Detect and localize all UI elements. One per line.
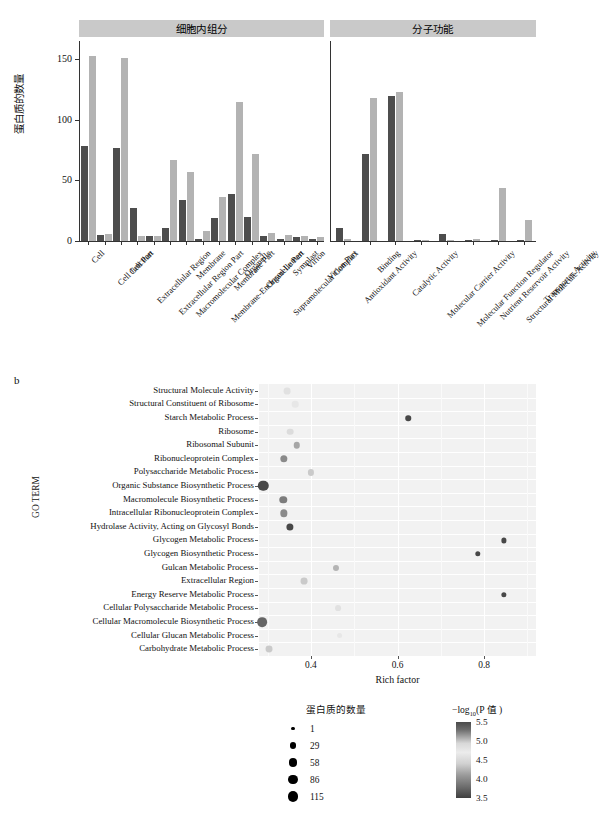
y-tick-label: 100	[38, 114, 72, 125]
bar-dark	[81, 146, 88, 241]
go-term-label: Extracellular Region	[181, 575, 254, 585]
legend-size-value: 115	[310, 792, 324, 802]
bar-light	[89, 56, 96, 241]
scatter-dot	[292, 401, 299, 408]
legend-size-dot-wrap	[276, 742, 310, 749]
legend-size-dot-wrap	[276, 758, 310, 766]
bar-light	[236, 102, 243, 241]
bar-group	[145, 41, 161, 241]
bar-dark	[439, 234, 446, 241]
legend-size-dot	[288, 775, 297, 784]
x-axis-label: Virion	[304, 248, 327, 271]
go-term-tick	[255, 513, 258, 514]
y-axis-title-panel-a: 蛋白质的数量	[11, 34, 26, 174]
go-term-tick	[255, 472, 258, 473]
go-term-tick	[255, 636, 258, 637]
legend-protein-count-title: 蛋白质的数量	[276, 702, 396, 716]
scatter-dot	[301, 578, 308, 585]
x-tick-label-panel-b: 0.4	[305, 660, 317, 670]
scatter-dot	[501, 538, 506, 543]
bar-light	[525, 220, 532, 241]
dot-plot-area: Structural Molecule ActivityStructural C…	[259, 384, 536, 656]
go-term-tick	[255, 581, 258, 582]
bar-group	[211, 41, 227, 241]
grid-line-vertical	[484, 384, 485, 656]
colorbar-tick-label: 4.5	[476, 755, 487, 765]
colorbar-tick-label: 4.0	[476, 774, 487, 784]
legend-protein-count-items: 1295886115	[276, 720, 396, 805]
facet-strip-molecular-function: 分子功能	[330, 20, 536, 37]
bar-light	[121, 58, 128, 241]
bar-light	[268, 233, 275, 241]
scatter-dot	[406, 415, 412, 421]
go-term-label: Polysaccharide Metabolic Process	[134, 466, 254, 476]
bar-group	[178, 41, 194, 241]
bar-group	[96, 41, 112, 241]
bar-light	[396, 92, 403, 241]
scatter-dot	[284, 387, 291, 394]
scatter-dot	[280, 510, 287, 517]
go-term-label: Ribosome	[218, 426, 254, 436]
y-tick-mark	[75, 59, 79, 60]
go-term-label: Hydrolase Activity, Acting on Glycosyl B…	[90, 521, 254, 531]
y-tick-mark	[75, 180, 79, 181]
go-term-label: Energy Reserve Metabolic Process	[131, 589, 254, 599]
x-axis-label: Molecular Function Regulator	[474, 248, 555, 329]
legend-size-item: 29	[276, 737, 396, 754]
grid-line-vertical	[311, 384, 312, 656]
bar-group	[194, 41, 210, 241]
go-term-label: Organic Substance Biosynthetic Process	[112, 480, 254, 490]
colorbar-tick-label: 5.0	[476, 736, 487, 746]
bar-dark	[244, 217, 251, 241]
colorbar-tick-label: 3.5	[476, 793, 487, 803]
scatter-dot	[293, 442, 299, 448]
go-term-tick	[255, 554, 258, 555]
go-term-tick	[255, 649, 258, 650]
bar-group	[460, 41, 486, 241]
x-axis-label: Cell	[89, 248, 106, 265]
y-axis-title-panel-b: GO TERM	[31, 437, 41, 557]
panel-b-letter: b	[14, 374, 20, 386]
scatter-dot	[335, 605, 341, 611]
legend-size-dot-wrap	[276, 775, 310, 784]
scatter-dot	[501, 592, 506, 597]
go-term-tick	[255, 459, 258, 460]
bar-group	[162, 41, 178, 241]
go-term-label: Ribosomal Subunit	[186, 439, 254, 449]
legend-size-dot-wrap	[276, 727, 310, 731]
go-term-label: Cellular Glucan Metabolic Process	[131, 630, 254, 640]
bar-light	[170, 160, 177, 241]
plot-area-cellular-component	[79, 41, 325, 241]
scatter-dot	[280, 496, 287, 503]
bar-light	[187, 172, 194, 241]
bar-group	[260, 41, 276, 241]
bar-group	[434, 41, 460, 241]
legend-pvalue-title-post: (P 值 )	[476, 704, 502, 715]
bar-light	[499, 188, 506, 241]
go-term-tick	[255, 404, 258, 405]
go-term-label: Structural Constituent of Ribosome	[129, 398, 254, 408]
go-term-label: Cellular Macromolecule Biosynthetic Proc…	[93, 616, 254, 626]
bar-dark	[179, 200, 186, 241]
go-term-tick	[255, 418, 258, 419]
bar-group	[383, 41, 409, 241]
x-tick-mark-panel-b	[311, 656, 312, 659]
go-term-label: Macromolecule Biosynthetic Process	[123, 494, 254, 504]
bar-group	[408, 41, 434, 241]
scatter-dot	[333, 565, 339, 571]
x-tick-mark-panel-b	[484, 656, 485, 659]
bar-group	[276, 41, 292, 241]
bar-group	[243, 41, 259, 241]
legend-size-value: 1	[310, 724, 315, 734]
legend-size-dot	[288, 791, 298, 801]
scatter-dot	[258, 617, 268, 627]
bar-dark	[388, 96, 395, 241]
bar-light	[105, 234, 112, 241]
legend-pvalue-title: −log10(P 值 )	[452, 702, 544, 717]
legend-size-dot	[291, 727, 295, 731]
legend-pvalue: −log10(P 值 ) 5.55.04.54.03.5	[452, 702, 544, 721]
scatter-dot	[475, 551, 480, 556]
scatter-dot	[337, 633, 343, 639]
scatter-dot	[265, 646, 272, 653]
legend-size-item: 1	[276, 720, 396, 737]
